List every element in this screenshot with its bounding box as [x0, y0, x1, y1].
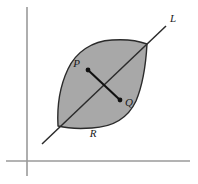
label-R: R: [89, 127, 97, 139]
label-L: L: [169, 12, 176, 24]
label-Q: Q: [125, 96, 133, 108]
label-P: P: [72, 57, 80, 69]
figure-canvas: P Q R L: [0, 0, 198, 184]
geometry-figure: P Q R L: [0, 0, 198, 184]
point-P-dot: [86, 68, 91, 73]
point-Q-dot: [118, 98, 123, 103]
